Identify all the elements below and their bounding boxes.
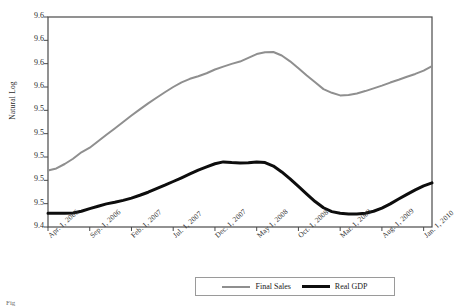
y-axis-tick-label: 9.6: [18, 35, 44, 43]
line-swatch-black: [302, 285, 330, 288]
legend-item-real-gdp: Real GDP: [302, 282, 368, 291]
y-axis-tick-label: 9.5: [18, 199, 44, 207]
legend-item-final-sales: Final Sales: [222, 282, 290, 291]
line-swatch-gray: [222, 286, 250, 288]
y-axis-tick-label: 9.6: [18, 82, 44, 90]
y-axis-tick-label: 9.5: [18, 175, 44, 183]
y-axis-tick-label: 9.4: [18, 222, 44, 230]
y-axis-tick-label: 9.5: [18, 105, 44, 113]
caption-marker: Fig: [6, 299, 15, 307]
chart-legend: Final SalesReal GDP: [195, 277, 395, 296]
plot-frame: [48, 17, 432, 227]
legend-label: Final Sales: [255, 282, 290, 291]
y-axis-tick-label: 9.6: [18, 12, 44, 20]
plot-border: [48, 17, 432, 227]
legend-label: Real GDP: [335, 282, 368, 291]
y-axis-tick-labels: 9.69.69.69.69.59.59.59.59.59.4: [14, 0, 44, 308]
y-axis-tick-label: 9.6: [18, 59, 44, 67]
y-axis-tick-label: 9.5: [18, 129, 44, 137]
y-axis-tick-label: 9.5: [18, 152, 44, 160]
